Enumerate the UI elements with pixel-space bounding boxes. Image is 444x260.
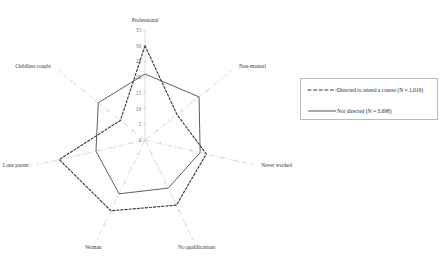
legend-solid-swatch: [307, 107, 337, 115]
radial-tick: [252, 163, 253, 166]
series-directed-to-course: [59, 46, 206, 211]
legend-label-directed: Directed to attend a course (N = 1,019): [337, 87, 423, 93]
radial-tick: [37, 163, 38, 166]
radial-tick: [237, 159, 238, 162]
category-label: Woman: [85, 244, 102, 250]
radial-tick: [191, 149, 192, 152]
legend-item-directed: Directed to attend a course (N = 1,019): [301, 79, 437, 100]
axis-spoke: [97, 140, 145, 239]
radar-chart: 05101520253035 ProfessionalNon-manualNev…: [0, 0, 444, 260]
radial-tick: [221, 156, 222, 159]
category-label: Lone parent: [3, 162, 29, 168]
radial-tick: [96, 238, 99, 239]
radar-plot-area: 05101520253035 ProfessionalNon-manualNev…: [0, 0, 444, 260]
radial-tick-label: 0: [138, 137, 141, 143]
category-label: Professional: [132, 17, 159, 23]
radial-tick-label: 30: [136, 43, 142, 49]
category-label: Non-manual: [239, 63, 266, 69]
radial-tick-label: 15: [136, 90, 142, 96]
legend-item-not-directed: Not directed (N = 3,698): [301, 100, 437, 121]
radial-tick: [230, 70, 232, 73]
radial-tick-labels: 05101520253035: [136, 27, 142, 143]
series-not-directed: [96, 74, 200, 194]
legend-dashed-swatch: [307, 86, 337, 94]
radial-tick: [160, 142, 161, 145]
radial-tick: [83, 152, 84, 155]
radial-tick-label: 5: [138, 121, 141, 127]
radial-tick-label: 10: [136, 106, 142, 112]
category-label: No qualifications: [178, 244, 215, 250]
radial-tick: [175, 145, 176, 148]
category-label: Childless couple: [15, 63, 51, 69]
legend-label-not-directed: Not directed (N = 3,698): [337, 108, 392, 114]
radial-tick-label: 35: [136, 27, 142, 33]
radial-tick: [191, 238, 194, 239]
radial-tick: [53, 159, 54, 162]
radial-tick: [68, 156, 69, 159]
chart-legend: Directed to attend a course (N = 1,019) …: [300, 78, 438, 120]
radial-tick: [129, 142, 130, 145]
radial-tick: [58, 70, 60, 73]
radial-tick: [114, 145, 115, 148]
radial-tick: [99, 149, 100, 152]
category-label: Never worked: [261, 162, 292, 168]
axis-spoke: [38, 140, 145, 164]
